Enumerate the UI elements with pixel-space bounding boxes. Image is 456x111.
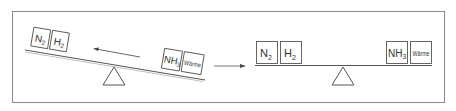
fulcrum-triangle xyxy=(103,67,125,85)
diagram-frame xyxy=(13,12,445,103)
equilibrium-diagram: N2 H2 NH3 Wärme N2 H2 NH3 Wärme xyxy=(0,0,456,111)
right-balance-level: N2 H2 NH3 Wärme xyxy=(255,42,432,86)
shift-arrow xyxy=(96,49,140,57)
transition-arrow xyxy=(214,64,246,68)
left-balance-tilted: N2 H2 NH3 Wärme xyxy=(25,27,205,85)
svg-text:Wärme: Wärme xyxy=(413,50,430,57)
fulcrum-triangle xyxy=(332,67,354,85)
arrow-head-left-icon xyxy=(93,48,99,52)
arrow-head-right-icon xyxy=(240,64,246,68)
